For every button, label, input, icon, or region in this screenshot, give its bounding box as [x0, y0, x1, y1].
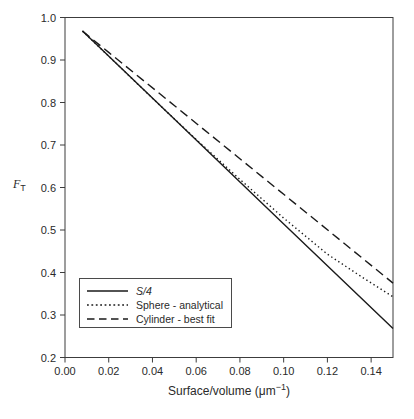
x-axis-title: Surface/volume (μm−1)	[65, 382, 393, 398]
x-tick-label: 0.12	[317, 365, 338, 377]
y-tick-label: 0.6	[41, 182, 56, 194]
y-tick-label: 0.7	[41, 139, 56, 151]
legend-label-sphere: Sphere - analytical	[136, 299, 223, 311]
x-tick-label: 0.02	[98, 365, 119, 377]
x-tick-label: 0.04	[142, 365, 163, 377]
x-tick-label: 0.14	[360, 365, 381, 377]
x-axis-title-close: )	[286, 384, 290, 398]
y-tick-label: 0.5	[41, 224, 56, 236]
x-tick-label: 0.08	[229, 365, 250, 377]
x-axis-title-exponent: −1	[276, 382, 286, 392]
y-tick-label: 0.9	[41, 54, 56, 66]
legend-label-s4: S/4	[136, 285, 152, 297]
y-tick-label: 1.0	[41, 12, 56, 24]
legend-item-sphere: Sphere - analytical	[86, 298, 231, 312]
y-tick-label: 0.4	[41, 267, 56, 279]
y-tick-label: 0.3	[41, 309, 56, 321]
legend-label-cylinder: Cylinder - best fit	[136, 313, 215, 325]
line-chart-figure: 0.000.020.040.060.080.100.120.140.20.30.…	[0, 0, 414, 419]
x-tick-label: 0.06	[185, 365, 206, 377]
y-axis-title: FT	[13, 177, 26, 193]
plot-canvas: 0.000.020.040.060.080.100.120.140.20.30.…	[0, 0, 414, 419]
dotted-line-sample	[86, 300, 129, 310]
solid-line-sample	[86, 286, 129, 296]
y-tick-label: 0.2	[41, 352, 56, 364]
series-line-dotted	[83, 31, 394, 297]
legend-item-cylinder: Cylinder - best fit	[86, 312, 231, 326]
x-tick-label: 0.10	[273, 365, 294, 377]
legend-item-s4: S/4	[86, 284, 231, 298]
y-axis-title-sub: T	[20, 183, 26, 193]
x-axis-title-text: Surface/volume (μm	[168, 384, 276, 398]
legend: S/4 Sphere - analytical Cylinder - best …	[79, 278, 232, 328]
series-line-dashed	[83, 31, 394, 283]
dashed-line-sample	[86, 314, 129, 324]
y-tick-label: 0.8	[41, 97, 56, 109]
x-tick-label: 0.00	[54, 365, 75, 377]
